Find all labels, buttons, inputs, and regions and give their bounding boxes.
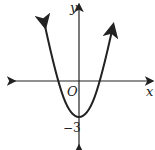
- origin-label: O: [67, 84, 78, 99]
- y-axis-label: y: [69, 0, 78, 15]
- parabola-diagram: y x O −3: [0, 0, 155, 150]
- y-intercept-label: −3: [63, 121, 81, 135]
- x-axis-label: x: [146, 84, 154, 99]
